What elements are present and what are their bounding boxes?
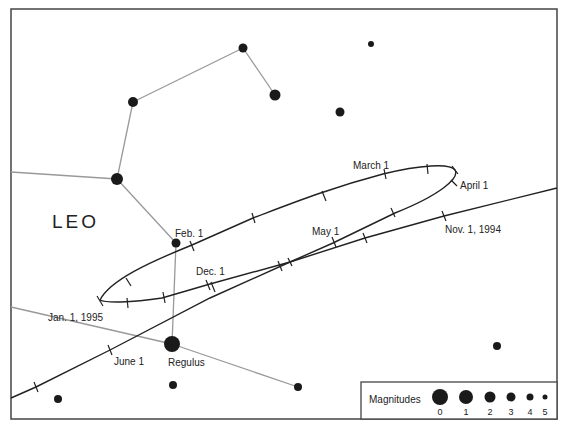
star [270, 90, 281, 101]
legend-magnitude-3-dot [507, 393, 516, 402]
star [368, 41, 374, 47]
legend-title: Magnitudes [369, 394, 421, 405]
magnitude-legend: Magnitudes 012345 [361, 382, 557, 419]
label-jun1: June 1 [114, 356, 144, 367]
label-jan1: Jan. 1, 1995 [48, 312, 103, 323]
legend-magnitude-label: 4 [527, 407, 532, 417]
legend-magnitude-1-dot [459, 390, 473, 404]
legend-magnitude-label: 3 [508, 407, 513, 417]
label-mar1: March 1 [353, 160, 390, 171]
date-ticks [34, 164, 458, 392]
star [172, 239, 181, 248]
legend-magnitude-0-dot [432, 389, 448, 405]
legend-magnitude-label: 1 [463, 407, 468, 417]
star [294, 383, 302, 391]
label-apr1: April 1 [460, 180, 489, 191]
label-feb1: Feb. 1 [175, 228, 204, 239]
star [54, 395, 62, 403]
star-chart: LEO Feb. 1 Dec. 1 Jan. 1, 1995 March 1 A… [0, 0, 568, 432]
stars [54, 41, 501, 403]
label-may1: May 1 [312, 226, 340, 237]
legend-magnitude-4-dot [527, 394, 534, 401]
star [128, 97, 138, 107]
star [111, 173, 123, 185]
label-regulus: Regulus [168, 357, 205, 368]
star [336, 108, 345, 117]
legend-magnitude-2-dot [485, 392, 496, 403]
legend-magnitude-label: 5 [542, 407, 547, 417]
orbit-path [11, 166, 557, 398]
legend-magnitude-5-dot [543, 395, 548, 400]
star-regulus [164, 336, 180, 352]
star [493, 342, 501, 350]
star [239, 44, 248, 53]
label-dec1: Dec. 1 [196, 266, 225, 277]
legend-magnitude-label: 2 [487, 407, 492, 417]
legend-magnitude-label: 0 [437, 407, 442, 417]
star [169, 381, 177, 389]
label-nov1: Nov. 1, 1994 [445, 224, 501, 235]
constellation-label: LEO [52, 211, 99, 232]
